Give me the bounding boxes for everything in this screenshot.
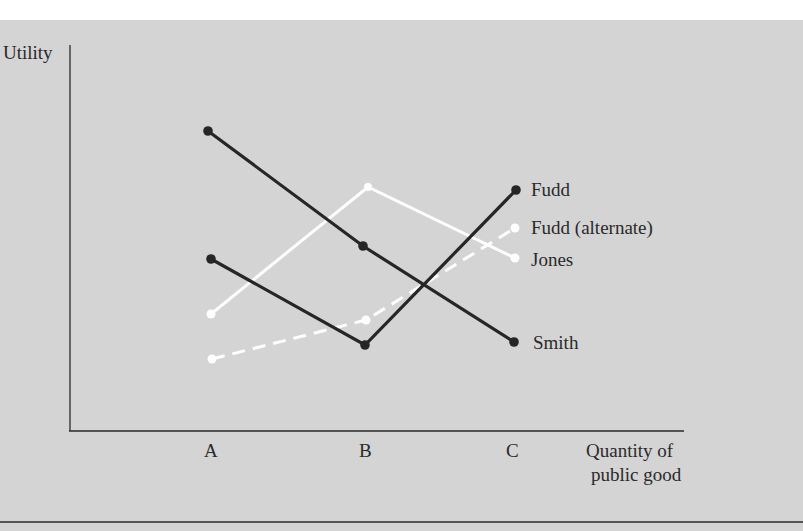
y-axis-label: Utility	[3, 42, 53, 64]
x-tick-c: C	[506, 440, 519, 462]
x-tick-b: B	[359, 440, 372, 462]
series-label-smith: Smith	[533, 332, 578, 354]
chart-plot	[0, 0, 803, 531]
series-label-fudd-alternate: Fudd (alternate)	[531, 217, 653, 239]
series-label-jones: Jones	[531, 249, 573, 271]
series-label-fudd: Fudd	[531, 179, 570, 201]
x-axis-label-line1: Quantity of	[586, 440, 673, 462]
x-axis-label-line2: public good	[591, 464, 681, 486]
series-fudd-markers	[206, 185, 521, 350]
x-tick-a: A	[204, 440, 218, 462]
